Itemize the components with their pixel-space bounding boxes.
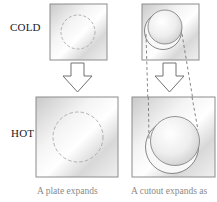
caption-right: A cutout expands as (131, 186, 207, 196)
cold-label: COLD (10, 21, 41, 33)
caption-left: A plate expands (37, 186, 98, 196)
cutout-plate-hot (132, 97, 215, 177)
hot-label: HOT (11, 127, 34, 139)
down-arrow-left (63, 63, 92, 92)
plate-cold (50, 4, 107, 60)
disk-cold (148, 10, 182, 44)
cutout-plate-cold (142, 4, 199, 60)
plate-hot (36, 97, 118, 177)
down-arrow-right (155, 63, 184, 92)
disk-hot (151, 117, 200, 166)
